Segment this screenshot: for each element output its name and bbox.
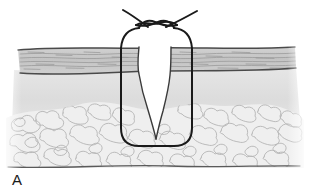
panel-label-a: A (12, 172, 22, 187)
figure-panel-a: A (0, 0, 309, 196)
edge-fade-overlay (0, 40, 309, 170)
skin-suture-cross-section-illustration (0, 0, 309, 196)
